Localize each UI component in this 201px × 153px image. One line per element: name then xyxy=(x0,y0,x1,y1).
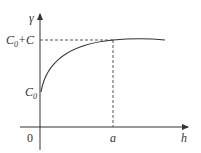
variogram-curve xyxy=(41,39,165,92)
x-axis-label: h xyxy=(181,132,187,144)
nugget-label: C0 xyxy=(25,86,37,101)
y-axis-label: γ xyxy=(29,12,34,24)
origin-label: 0 xyxy=(27,132,33,144)
semivariogram-diagram: γ C0+C C0 0 a h xyxy=(0,0,201,153)
range-label: a xyxy=(110,132,116,144)
sill-label: C0+C xyxy=(6,34,34,49)
